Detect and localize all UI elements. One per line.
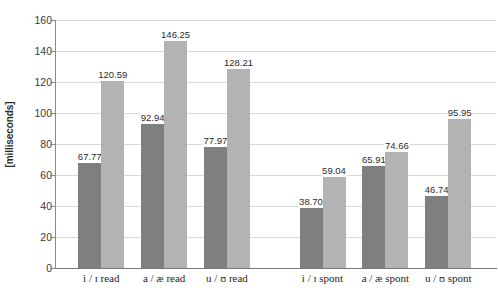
bar-value-label: 146.25 xyxy=(160,29,191,40)
bar-value-label: 74.66 xyxy=(384,140,410,151)
bar: 67.77 xyxy=(78,163,101,268)
bar-value-label: 46.74 xyxy=(424,184,450,195)
bar: 38.70 xyxy=(300,208,323,268)
bar: 92.94 xyxy=(141,124,164,268)
y-tick-mark xyxy=(50,268,55,269)
y-tick-mark xyxy=(50,51,55,52)
bar: 120.59 xyxy=(101,81,124,268)
category-label: a / æ read xyxy=(143,272,185,284)
category-label: u / ʊ read xyxy=(206,272,248,284)
category-label: i / ɪ spont xyxy=(302,272,343,284)
y-tick-mark xyxy=(50,144,55,145)
bar-value-label: 59.04 xyxy=(321,165,347,176)
gridline xyxy=(56,20,496,21)
plot-area: 67.77120.5992.94146.2577.97128.2138.7059… xyxy=(56,20,496,268)
category-label: a / æ spont xyxy=(362,272,409,284)
bar: 74.66 xyxy=(385,152,408,268)
bar: 95.95 xyxy=(448,119,471,268)
bar-value-label: 38.70 xyxy=(298,196,324,207)
y-tick-mark xyxy=(50,20,55,21)
category-label: u / ʊ spont xyxy=(425,272,472,284)
bar-value-label: 77.97 xyxy=(203,135,229,146)
bar-value-label: 65.91 xyxy=(361,154,387,165)
y-axis-title-text: [milliseconds] xyxy=(5,101,16,167)
bar: 77.97 xyxy=(204,147,227,268)
y-tick-mark xyxy=(50,175,55,176)
x-axis-category-labels: i / ɪ reada / æ readu / ʊ readi / ɪ spon… xyxy=(56,272,496,294)
y-tick-mark xyxy=(50,237,55,238)
x-axis-line xyxy=(56,268,497,269)
y-axis-title: [milliseconds] xyxy=(2,0,18,268)
bar: 146.25 xyxy=(164,41,187,268)
bar: 46.74 xyxy=(425,196,448,268)
bar-value-label: 67.77 xyxy=(77,151,103,162)
y-tick-mark xyxy=(50,113,55,114)
bar-value-label: 120.59 xyxy=(97,69,128,80)
bar: 59.04 xyxy=(323,177,346,269)
bar-value-label: 92.94 xyxy=(140,112,166,123)
bar-value-label: 128.21 xyxy=(223,57,254,68)
y-tick-mark xyxy=(50,82,55,83)
bar-value-label: 95.95 xyxy=(447,107,473,118)
bar-chart: [milliseconds] 020406080100120140160 67.… xyxy=(0,0,498,307)
category-label: i / ɪ read xyxy=(83,272,119,284)
gridline xyxy=(56,51,496,52)
y-tick-mark xyxy=(50,206,55,207)
bar: 128.21 xyxy=(227,69,250,268)
bar: 65.91 xyxy=(362,166,385,268)
y-axis-tick-labels: 020406080100120140160 xyxy=(18,0,52,268)
